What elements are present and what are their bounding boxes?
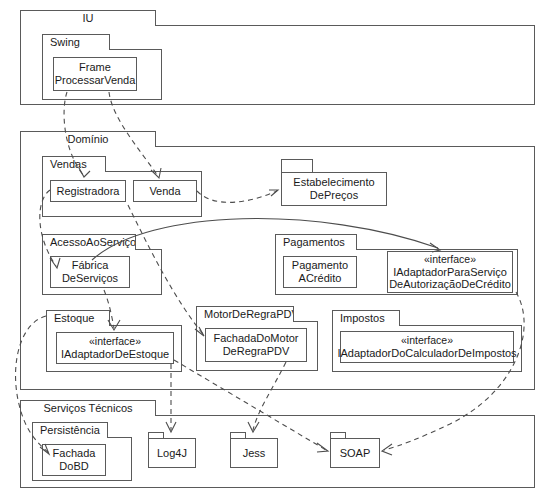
class-frame-processar-venda[interactable]: Frame ProcessarVenda <box>53 57 137 91</box>
class-label-line2: DePreços <box>310 189 358 202</box>
package-estabelecimento-tab <box>281 159 313 173</box>
class-label-line1: Fábrica <box>72 259 109 272</box>
class-label-line1: Registradora <box>57 185 120 198</box>
package-impostos-tab: Impostos <box>332 310 400 326</box>
package-servicos-tecnicos-tab: Serviços Técnicos <box>20 400 156 416</box>
package-pagamentos-label: Pagamentos <box>283 237 345 248</box>
class-label-line2: DeServiços <box>62 272 118 285</box>
class-log4j[interactable]: Log4J <box>148 438 196 468</box>
package-impostos-label: Impostos <box>340 313 385 324</box>
uml-package-diagram: IU Swing Frame ProcessarVenda Domínio Ve… <box>0 0 551 503</box>
class-iadaptador-de-estoque[interactable]: «interface» IAdaptadorDeEstoque <box>56 332 174 364</box>
package-dominio-label: Domínio <box>68 134 109 145</box>
class-label-line1: FachadaDoMotor <box>214 332 299 345</box>
class-label-line2: DeAutorizaçãoDeCrédito <box>389 278 511 291</box>
package-dominio-tab: Domínio <box>20 131 156 147</box>
class-label-line1: Log4J <box>157 447 187 460</box>
package-iu-tab: IU <box>20 10 156 26</box>
package-swing-tab: Swing <box>42 34 110 50</box>
class-label-line2: ProcessarVenda <box>55 74 136 87</box>
class-iadaptador-para-servico-autorizacao[interactable]: «interface» IAdaptadorParaServiço DeAuto… <box>387 251 513 293</box>
package-pagamentos-tab: Pagamentos <box>275 234 357 250</box>
package-estoque-tab: Estoque <box>46 310 110 326</box>
class-pagamento-a-credito[interactable]: Pagamento ACrédito <box>283 256 357 288</box>
class-label-line2: DoBD <box>59 460 88 473</box>
class-label-line1: Estabelecimento <box>293 176 374 189</box>
stereotype-label: «interface» <box>401 334 453 347</box>
class-soap[interactable]: SOAP <box>330 438 380 468</box>
package-vendas-tab: Vendas <box>42 156 106 172</box>
class-label-line2: DeRegraPDV <box>223 345 290 358</box>
class-label-line2: ACrédito <box>299 272 342 285</box>
package-motor-de-regra-pdv-tab: MotorDeRegraPDV <box>196 306 294 322</box>
class-fachada-do-bd[interactable]: Fachada DoBD <box>42 444 106 476</box>
class-estabelecimento-de-precos[interactable]: Estabelecimento DePreços <box>281 172 387 206</box>
stereotype-label: «interface» <box>89 335 141 348</box>
class-label-line1: IAdaptadorDeEstoque <box>61 348 169 361</box>
class-jess[interactable]: Jess <box>230 438 278 468</box>
class-label-line1: SOAP <box>340 447 371 460</box>
package-acesso-ao-servico-tab: AcessoAoServiço <box>42 234 136 250</box>
class-registradora[interactable]: Registradora <box>50 180 126 202</box>
class-label-line1: IAdaptadorParaServiço <box>393 266 507 279</box>
class-label-line1: IAdaptadorDoCalculadorDeImpostos <box>337 347 516 360</box>
package-vendas-label: Vendas <box>50 159 87 170</box>
package-iu-label: IU <box>83 13 94 24</box>
class-label-line1: Fachada <box>53 447 96 460</box>
class-venda[interactable]: Venda <box>133 180 197 202</box>
package-swing-label: Swing <box>50 37 80 48</box>
package-persistencia-label: Persistência <box>40 425 100 436</box>
package-acesso-ao-servico-label: AcessoAoServiço <box>50 237 136 248</box>
package-servicos-tecnicos-label: Serviços Técnicos <box>43 403 132 414</box>
class-fachada-do-motor-de-regra-pdv[interactable]: FachadaDoMotor DeRegraPDV <box>205 328 307 362</box>
class-label-line1: Frame <box>79 61 111 74</box>
package-motor-de-regra-pdv-label: MotorDeRegraPDV <box>204 309 294 320</box>
class-label-line1: Venda <box>149 185 180 198</box>
class-iadaptador-do-calculador-de-impostos[interactable]: «interface» IAdaptadorDoCalculadorDeImpo… <box>340 331 514 363</box>
stereotype-label: «interface» <box>424 253 476 266</box>
class-label-line1: Pagamento <box>292 259 348 272</box>
package-persistencia-tab: Persistência <box>32 422 108 438</box>
class-fabrica-de-servicos[interactable]: Fábrica DeServiços <box>50 256 130 288</box>
package-estoque-label: Estoque <box>54 313 94 324</box>
class-label-line1: Jess <box>243 447 266 460</box>
